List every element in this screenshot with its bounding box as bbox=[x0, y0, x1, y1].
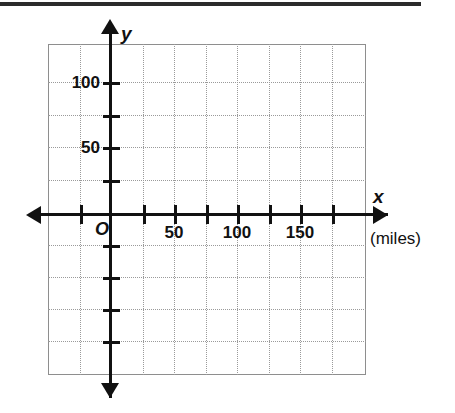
x-axis-tick bbox=[237, 205, 240, 224]
x-axis-tick bbox=[300, 205, 303, 224]
grid-line-horizontal bbox=[48, 245, 366, 246]
y-axis-tick bbox=[103, 115, 120, 118]
grid-line-horizontal bbox=[48, 115, 366, 116]
y-axis-down-arrow-icon bbox=[101, 383, 119, 398]
y-axis-tick-label: 100 bbox=[72, 74, 100, 91]
grid-line-horizontal bbox=[48, 180, 366, 181]
y-axis-tick bbox=[103, 309, 120, 312]
x-axis-tick bbox=[80, 205, 83, 224]
y-axis-tick bbox=[103, 147, 120, 150]
page-divider-rule bbox=[0, 2, 421, 6]
y-axis-name-label: y bbox=[121, 24, 132, 43]
y-axis-tick bbox=[103, 277, 120, 280]
origin-label: O bbox=[95, 220, 109, 238]
x-axis-tick-label: 100 bbox=[223, 224, 251, 241]
x-axis-tick bbox=[269, 205, 272, 224]
y-axis-up-arrow-icon bbox=[101, 19, 119, 34]
grid-line-horizontal bbox=[48, 309, 366, 310]
y-axis-tick bbox=[103, 180, 120, 183]
grid-line-horizontal bbox=[48, 341, 366, 342]
y-axis-tick bbox=[103, 82, 120, 85]
coordinate-grid-figure: 5010015050100 O x y (miles) bbox=[0, 0, 455, 413]
x-axis-tick bbox=[143, 205, 146, 224]
x-axis-left-arrow-icon bbox=[26, 206, 41, 224]
x-axis-tick-label: 50 bbox=[165, 224, 184, 241]
y-axis-tick bbox=[103, 341, 120, 344]
x-axis-tick-label: 150 bbox=[286, 224, 314, 241]
y-axis-tick-label: 50 bbox=[81, 139, 100, 156]
x-axis-tick bbox=[332, 205, 335, 224]
x-axis-tick bbox=[174, 205, 177, 224]
x-axis-name-label: x bbox=[373, 187, 384, 206]
x-axis-tick bbox=[206, 205, 209, 224]
grid-line-horizontal bbox=[48, 277, 366, 278]
x-axis-right-arrow-icon bbox=[373, 206, 388, 224]
y-axis-tick bbox=[103, 245, 120, 248]
x-axis-unit-label: (miles) bbox=[370, 230, 421, 247]
